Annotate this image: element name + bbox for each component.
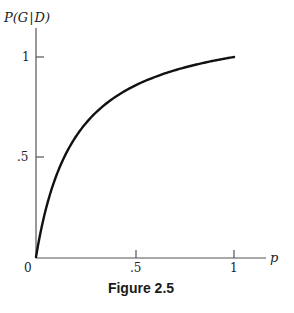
curve-line xyxy=(36,57,234,257)
x-tick-label-half: .5 xyxy=(130,261,141,275)
figure-caption: Figure 2.5 xyxy=(0,280,282,296)
x-axis-label: p xyxy=(270,250,279,265)
chart-canvas: P(G|D) 1 .5 0 .5 1 p xyxy=(0,0,294,313)
y-tick-label-1: 1 xyxy=(22,50,30,64)
x-tick-label-1: 1 xyxy=(230,261,238,275)
y-axis-label: P(G|D) xyxy=(3,10,50,25)
y-tick-label-half: .5 xyxy=(17,150,28,164)
origin-label: 0 xyxy=(24,261,32,275)
